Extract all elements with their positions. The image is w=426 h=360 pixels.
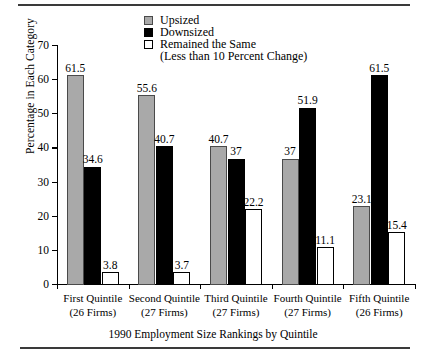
bar-value-label: 55.6	[137, 83, 157, 95]
x-tick-mark	[343, 284, 344, 289]
bar-downsized-fourth-quintile: 51.9	[299, 108, 316, 285]
bar-value-label: 11.1	[315, 235, 335, 247]
bar-value-label: 37	[230, 146, 242, 158]
y-tick-label: 40	[38, 141, 50, 153]
y-tick-label: 60	[38, 73, 50, 85]
bar-downsized-first-quintile: 34.6	[84, 167, 101, 285]
bar-value-label: 40.7	[208, 134, 228, 146]
bottom-rule	[20, 347, 410, 349]
bar-value-label: 3.8	[103, 260, 117, 272]
x-tick-mark	[415, 284, 416, 289]
bar-remained-the-same-fourth-quintile: 11.1	[317, 247, 334, 285]
y-tick-label: 0	[43, 278, 49, 290]
x-category-name: First Quintile	[63, 292, 122, 304]
bar-downsized-fifth-quintile: 61.5	[371, 75, 388, 285]
bar-remained-the-same-first-quintile: 3.8	[102, 272, 119, 285]
y-tick-label: 70	[38, 39, 50, 51]
legend-swatch-downsized-icon	[144, 28, 153, 37]
bar-value-label: 37	[284, 146, 296, 158]
top-rule	[18, 4, 410, 6]
y-tick-mark	[52, 45, 57, 46]
bar-value-label: 40.7	[154, 134, 174, 146]
bar-value-label: 61.5	[369, 63, 389, 75]
x-tick-mark	[57, 284, 58, 289]
bar-upsized-third-quintile: 40.7	[210, 146, 227, 285]
x-category-label-first-quintile: First Quintile(26 Firms)	[57, 292, 129, 319]
x-category-name: Second Quintile	[129, 292, 200, 304]
x-category-label-third-quintile: Third Quintile(27 Firms)	[200, 292, 272, 319]
bar-downsized-third-quintile: 37	[228, 159, 245, 285]
x-category-firm-count: (27 Firms)	[200, 306, 272, 320]
y-tick-mark	[52, 79, 57, 80]
y-tick-label: 30	[38, 176, 50, 188]
y-tick-mark	[52, 113, 57, 114]
x-category-label-fourth-quintile: Fourth Quintile(27 Firms)	[272, 292, 344, 319]
y-tick-mark	[52, 182, 57, 183]
bar-value-label: 22.2	[243, 197, 263, 209]
x-category-firm-count: (27 Firms)	[272, 306, 344, 320]
bar-value-label: 51.9	[298, 95, 318, 107]
legend-swatch-upsized-icon	[144, 16, 153, 25]
bar-remained-the-same-second-quintile: 3.7	[173, 272, 190, 285]
chart-figure: Percentage in Each Category Upsized Down…	[0, 0, 426, 360]
y-tick-label: 10	[38, 244, 50, 256]
bar-value-label: 23.1	[352, 194, 372, 206]
x-tick-mark	[272, 284, 273, 289]
x-category-firm-count: (27 Firms)	[129, 306, 201, 320]
x-category-name: Fourth Quintile	[274, 292, 342, 304]
x-category-name: Third Quintile	[204, 292, 267, 304]
bar-upsized-fourth-quintile: 37	[282, 159, 299, 285]
bar-downsized-second-quintile: 40.7	[156, 146, 173, 285]
bar-value-label: 15.4	[387, 220, 407, 232]
x-category-label-second-quintile: Second Quintile(27 Firms)	[129, 292, 201, 319]
bar-remained-the-same-third-quintile: 22.2	[245, 209, 262, 285]
y-axis-title: Percentage in Each Category	[24, 0, 36, 186]
x-tick-mark	[200, 284, 201, 289]
x-category-label-fifth-quintile: Fifth Quintile(26 Firms)	[343, 292, 415, 319]
y-tick-mark	[52, 147, 57, 148]
bar-upsized-fifth-quintile: 23.1	[353, 206, 370, 285]
x-category-name: Fifth Quintile	[349, 292, 409, 304]
bar-upsized-second-quintile: 55.6	[138, 95, 155, 285]
bar-remained-the-same-fifth-quintile: 15.4	[388, 232, 405, 285]
x-category-firm-count: (26 Firms)	[343, 306, 415, 320]
x-tick-mark	[129, 284, 130, 289]
x-category-firm-count: (26 Firms)	[57, 306, 129, 320]
bar-value-label: 34.6	[83, 154, 103, 166]
bar-value-label: 61.5	[65, 63, 85, 75]
bar-upsized-first-quintile: 61.5	[67, 75, 84, 285]
x-axis-title: 1990 Employment Size Rankings by Quintil…	[0, 328, 426, 340]
y-tick-mark	[52, 250, 57, 251]
y-tick-label: 50	[38, 107, 50, 119]
y-axis-line	[57, 45, 58, 285]
bar-value-label: 3.7	[175, 260, 189, 272]
plot-area: 010203040506070 61.534.63.855.640.73.740…	[57, 45, 415, 285]
y-tick-mark	[52, 216, 57, 217]
y-tick-label: 20	[38, 210, 50, 222]
